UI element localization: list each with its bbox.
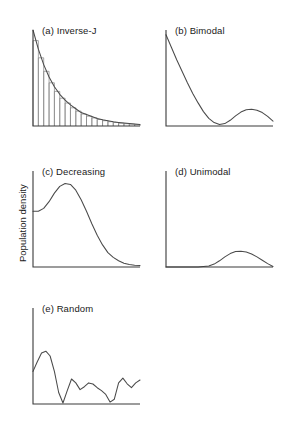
panel-c-decreasing: [33, 171, 140, 267]
panel-d-axes: [166, 171, 273, 267]
panel-c-curve: [33, 184, 140, 266]
panel-b-axes: [166, 30, 273, 126]
panel-a-histogram: [33, 41, 140, 126]
panel-d-curve: [166, 251, 273, 267]
population-age-structure-figure: Population density (a) Inverse-J: [0, 0, 285, 436]
panel-b-curve: [166, 35, 273, 125]
panel-e-axes: [33, 308, 140, 404]
panel-a-inverse-j: [33, 30, 140, 126]
panel-e-curve: [33, 351, 140, 403]
panel-d-unimodal: Age class: [166, 171, 273, 267]
panel-c-axes: [33, 171, 140, 267]
panel-e-random: Age class: [33, 308, 140, 404]
panel-b-bimodal: [166, 30, 273, 126]
y-axis-label: Population density: [17, 184, 28, 262]
